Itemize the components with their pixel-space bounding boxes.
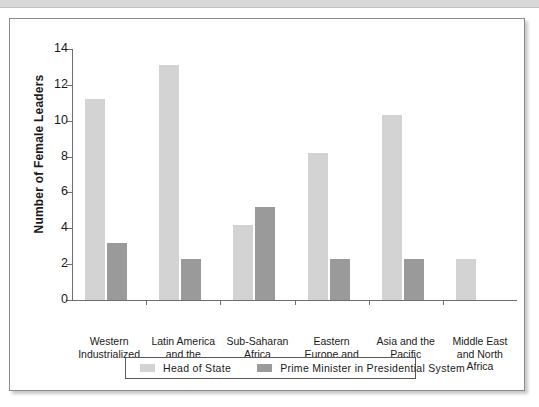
bar — [255, 207, 275, 300]
bar — [456, 259, 476, 300]
x-axis-label-line: Sub-Saharan — [214, 335, 300, 348]
x-tick-mark — [295, 300, 296, 305]
bar — [85, 99, 105, 300]
x-tick-mark — [443, 300, 444, 305]
bar-group — [295, 49, 369, 300]
x-axis-label-line: Western — [66, 335, 152, 348]
bar — [404, 259, 424, 300]
bar — [308, 153, 328, 300]
legend-swatch — [257, 364, 272, 372]
bar-group — [443, 49, 517, 300]
page-top-strip — [0, 0, 539, 8]
x-tick-mark — [369, 300, 370, 305]
y-tick-label: 0 — [61, 292, 68, 306]
x-axis-label-line: Eastern — [289, 335, 375, 348]
y-tick-label: 6 — [61, 184, 68, 198]
bar-group — [146, 49, 220, 300]
y-tick-label: 10 — [54, 113, 68, 127]
bar-chart: Number of Female Leaders 02468101214 Wes… — [10, 19, 524, 390]
y-tick-label: 4 — [61, 220, 68, 234]
x-axis-label-line: Asia and the — [363, 335, 449, 348]
bar-group — [369, 49, 443, 300]
chart-legend: Head of StatePrime Minister in President… — [125, 357, 416, 379]
y-tick-label: 2 — [61, 256, 68, 270]
y-axis-title: Number of Female Leaders — [32, 59, 46, 249]
bar — [382, 115, 402, 300]
legend-entry: Prime Minister in Presidential System — [257, 362, 465, 374]
bar — [233, 225, 253, 300]
x-tick-mark — [146, 300, 147, 305]
legend-label: Head of State — [163, 362, 231, 374]
plot-area: 02468101214 WesternIndustrializedLatin A… — [72, 49, 517, 300]
y-tick-label: 8 — [61, 149, 68, 163]
bar — [107, 243, 127, 300]
bar — [159, 65, 179, 300]
legend-swatch — [140, 364, 155, 372]
y-tick-label: 14 — [54, 41, 68, 55]
x-axis-label-line: Middle East — [437, 335, 523, 348]
x-axis-label-line: Latin America — [140, 335, 226, 348]
bar — [330, 259, 350, 300]
legend-label: Prime Minister in Presidential System — [280, 362, 465, 374]
bar — [181, 259, 201, 300]
legend-entry: Head of State — [140, 362, 231, 374]
x-tick-mark — [220, 300, 221, 305]
x-axis-label-line: and North — [437, 348, 523, 361]
chart-figure-frame: Number of Female Leaders 02468101214 Wes… — [9, 18, 525, 391]
bar-group — [220, 49, 294, 300]
y-tick-label: 12 — [54, 77, 68, 91]
bar-group — [72, 49, 146, 300]
